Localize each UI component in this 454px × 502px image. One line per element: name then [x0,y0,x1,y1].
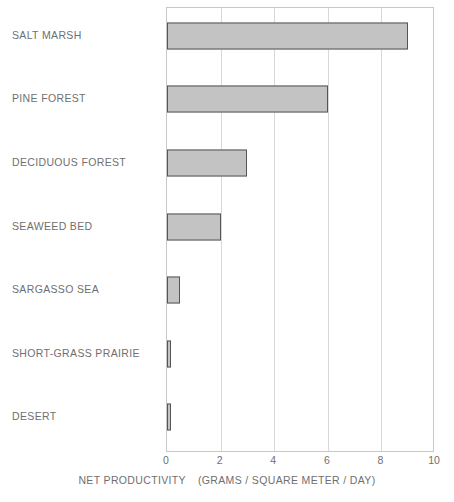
bar [167,22,408,49]
x-tick-label: 0 [163,454,169,466]
bar [167,149,247,176]
bar [167,213,221,240]
x-axis-title-units: (GRAMS / SQUARE METER / DAY) [198,474,376,486]
category-label: PINE FOREST [12,92,160,104]
x-axis-tick-labels: 0246810 [166,454,434,470]
gridline [274,8,275,451]
x-tick-label: 4 [270,454,276,466]
gridline [328,8,329,451]
category-label: SHORT-GRASS PRAIRIE [12,347,160,359]
gridline [381,8,382,451]
category-label: DESERT [12,410,160,422]
x-axis-title: NET PRODUCTIVITY(GRAMS / SQUARE METER / … [0,474,454,486]
bar [167,404,171,431]
bar [167,86,328,113]
category-label: SEAWEED BED [12,220,160,232]
productivity-bar-chart: SALT MARSHPINE FORESTDECIDUOUS FORESTSEA… [0,0,454,502]
x-tick-label: 8 [377,454,383,466]
category-label: SARGASSO SEA [12,283,160,295]
x-axis-title-main: NET PRODUCTIVITY [78,474,186,486]
x-tick-label: 2 [217,454,223,466]
bar [167,340,171,367]
plot-area [166,7,434,452]
category-label: SALT MARSH [12,29,160,41]
category-label: DECIDUOUS FOREST [12,156,160,168]
x-tick-label: 10 [428,454,440,466]
gridline [221,8,222,451]
category-label-column: SALT MARSHPINE FORESTDECIDUOUS FORESTSEA… [0,0,160,502]
bar [167,277,180,304]
x-tick-label: 6 [324,454,330,466]
